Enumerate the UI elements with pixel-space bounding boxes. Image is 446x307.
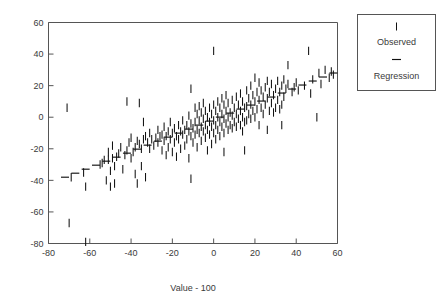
- legend-label-regression: Regression: [374, 71, 420, 81]
- y-axis-ticks: -80-60-40-200204060: [30, 18, 53, 249]
- x-tick-label: 20: [250, 248, 260, 258]
- x-tick-label: 60: [332, 248, 342, 258]
- legend: ObservedRegression: [358, 15, 436, 91]
- y-tick-label: 0: [38, 112, 43, 122]
- plot-canvas: -80-60-40-200204060-80-60-40-200204060Va…: [0, 0, 446, 307]
- x-axis-ticks: -80-60-40-200204060: [42, 239, 343, 258]
- axes-group: [49, 23, 338, 244]
- scatter-plot-figure: -80-60-40-200204060-80-60-40-200204060Va…: [0, 0, 446, 307]
- y-tick-label: -60: [30, 207, 43, 217]
- legend-label-observed: Observed: [377, 37, 416, 47]
- regression-line-group: [61, 73, 337, 177]
- x-tick-label: -80: [42, 248, 55, 258]
- y-tick-label: 40: [33, 49, 43, 59]
- x-tick-label: -20: [166, 248, 179, 258]
- y-tick-label: -40: [30, 176, 43, 186]
- x-axis-label: Value - 100: [170, 283, 215, 293]
- y-tick-label: -20: [30, 144, 43, 154]
- x-tick-label: -40: [125, 248, 138, 258]
- observed-points-group: [67, 47, 333, 246]
- x-tick-label: 40: [291, 248, 301, 258]
- y-tick-label: 60: [33, 18, 43, 28]
- y-tick-label: 20: [33, 81, 43, 91]
- x-tick-label: -60: [83, 248, 96, 258]
- x-tick-label: 0: [211, 248, 216, 258]
